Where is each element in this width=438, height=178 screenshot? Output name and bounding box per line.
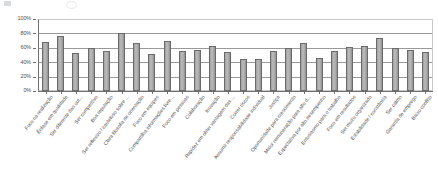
bar[interactable] [209, 46, 216, 91]
bar[interactable] [72, 53, 79, 91]
bar-chart: 0%20%40%60%80%100% Foco na realizaçãoÊnf… [0, 0, 438, 178]
bar[interactable] [224, 52, 231, 91]
x-axis-tick-mark [410, 91, 411, 94]
bar[interactable] [285, 48, 292, 91]
bar[interactable] [361, 46, 368, 91]
y-axis-tick-mark [33, 48, 36, 49]
y-axis-tick-label: 40% [21, 60, 32, 65]
bar[interactable] [346, 47, 353, 91]
y-axis-tick-label: 100% [18, 16, 31, 21]
x-axis-tick-mark [289, 91, 290, 94]
x-axis-tick-mark [152, 91, 153, 94]
x-axis-tick-mark [365, 91, 366, 94]
x-axis-tick-mark [182, 91, 183, 94]
bar[interactable] [42, 42, 49, 91]
category-label: Justiça [267, 94, 281, 110]
y-axis-tick-mark [33, 91, 36, 92]
y-axis: 0%20%40%60%80%100% [0, 19, 36, 91]
x-axis-tick-mark [137, 91, 138, 94]
bar-slot [296, 19, 311, 91]
x-axis-tick-mark [76, 91, 77, 94]
header-badge-icon [66, 1, 77, 9]
bar[interactable] [103, 51, 110, 91]
bar[interactable] [376, 38, 383, 91]
bar[interactable] [194, 50, 201, 91]
bar[interactable] [300, 43, 307, 91]
x-axis-tick-mark [228, 91, 229, 94]
x-axis-tick-mark [91, 91, 92, 94]
bar[interactable] [255, 59, 262, 91]
bar-slot [327, 19, 342, 91]
bar[interactable] [316, 58, 323, 91]
bar-slot [160, 19, 175, 91]
y-axis-tick-label: 80% [21, 31, 32, 36]
bar-slot [99, 19, 114, 91]
header-strip [0, 0, 438, 10]
bar-slot [144, 19, 159, 91]
x-axis-tick-mark [198, 91, 199, 94]
bar-slot [220, 19, 235, 91]
bar[interactable] [88, 48, 95, 91]
bar[interactable] [407, 50, 414, 91]
bar-slot [387, 19, 402, 91]
bar-slot [205, 19, 220, 91]
bar-slot [266, 19, 281, 91]
bar-slot [311, 19, 326, 91]
y-axis-tick-mark [33, 19, 36, 20]
bar-slot [68, 19, 83, 91]
y-axis-tick-mark [33, 33, 36, 34]
x-axis-tick-mark [258, 91, 259, 94]
bars-layer [38, 19, 433, 91]
bar-slot [190, 19, 205, 91]
bar[interactable] [240, 59, 247, 91]
bar[interactable] [422, 52, 429, 91]
y-axis-tick-mark [33, 62, 36, 63]
bar[interactable] [270, 51, 277, 91]
x-axis-tick-mark [380, 91, 381, 94]
x-axis-tick-mark [61, 91, 62, 94]
bar-slot [236, 19, 251, 91]
x-axis-tick-mark [273, 91, 274, 94]
bar-slot [129, 19, 144, 91]
bar[interactable] [148, 54, 155, 91]
bar[interactable] [392, 48, 399, 91]
bar-slot [53, 19, 68, 91]
header-marker-icon [4, 1, 11, 6]
x-axis-tick-mark [46, 91, 47, 94]
y-axis-tick-mark [33, 77, 36, 78]
bar-slot [251, 19, 266, 91]
x-axis-tick-mark [122, 91, 123, 94]
y-axis-tick-label: 60% [21, 45, 32, 50]
bar[interactable] [179, 51, 186, 91]
y-axis-tick-label: 0% [23, 88, 31, 93]
bar-slot [357, 19, 372, 91]
bar[interactable] [164, 41, 171, 91]
x-axis-tick-mark [395, 91, 396, 94]
bar[interactable] [57, 36, 64, 91]
bar[interactable] [133, 43, 140, 91]
bar-slot [403, 19, 418, 91]
bar-slot [38, 19, 53, 91]
category-labels: Foco na realizaçãoÊnfase em qualidadeSer… [0, 94, 438, 178]
bar-slot [114, 19, 129, 91]
x-axis-tick-mark [213, 91, 214, 94]
x-axis-tick-mark [167, 91, 168, 94]
x-axis-tick-mark [349, 91, 350, 94]
bar-slot [342, 19, 357, 91]
bar-slot [418, 19, 433, 91]
bar-slot [281, 19, 296, 91]
bar-slot [84, 19, 99, 91]
x-axis-line [38, 91, 433, 92]
y-axis-tick-label: 20% [21, 74, 32, 79]
x-axis-tick-mark [304, 91, 305, 94]
x-axis-tick-mark [243, 91, 244, 94]
x-axis-tick-mark [334, 91, 335, 94]
bar-slot [175, 19, 190, 91]
bar[interactable] [331, 51, 338, 91]
x-axis-tick-mark [319, 91, 320, 94]
bar-slot [372, 19, 387, 91]
x-axis-tick-mark [425, 91, 426, 94]
x-axis-tick-mark [106, 91, 107, 94]
bar[interactable] [118, 33, 125, 91]
